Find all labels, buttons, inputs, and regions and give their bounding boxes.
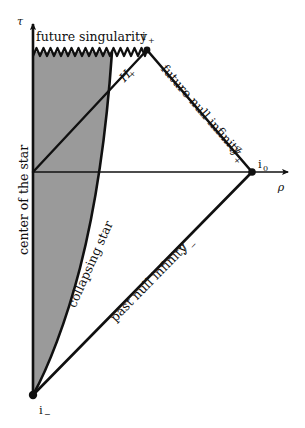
i-zero-subscript: 0: [263, 164, 268, 173]
rho-axis-label: ρ: [277, 181, 285, 194]
i-minus-label: i: [39, 403, 43, 417]
i-plus-subscript: +: [148, 36, 155, 45]
future-singularity-label: future singularity: [36, 29, 148, 44]
future-null-infinity-label: future null infinity: [158, 61, 246, 159]
i-zero-label: i: [258, 157, 262, 171]
past-null-infinity-label-group: past null infinity ℐ −: [107, 234, 199, 327]
i-zero-label-group: i 0: [258, 157, 268, 173]
i-minus-subscript: −: [44, 410, 51, 419]
i-plus-label-group: i +: [142, 29, 155, 45]
penrose-diagram-svg: τ ρ future singularity i + i 0 i − H + c…: [0, 0, 305, 428]
center-of-the-star-label: center of the star: [16, 145, 31, 255]
i-minus-point: [29, 391, 37, 399]
horizon-label-group: H +: [116, 64, 138, 86]
penrose-diagram-figure: τ ρ future singularity i + i 0 i − H + c…: [0, 0, 305, 428]
i-zero-point: [248, 168, 256, 176]
i-plus-point: [144, 47, 151, 54]
tau-axis-label: τ: [17, 15, 24, 28]
scri-minus-subscript: −: [188, 240, 199, 251]
future-null-infinity-label-group: future null infinity ℐ +: [155, 61, 249, 166]
i-plus-label: i: [142, 29, 146, 43]
i-minus-label-group: i −: [39, 403, 51, 419]
past-null-infinity-label: past null infinity: [107, 239, 191, 324]
